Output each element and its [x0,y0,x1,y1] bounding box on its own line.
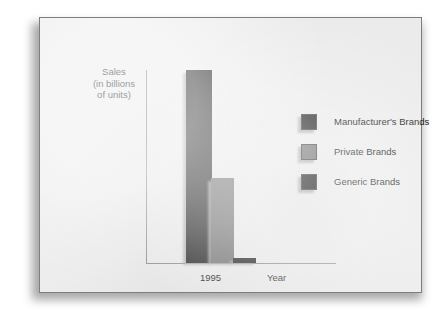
legend-swatch-box [301,114,317,130]
legend-swatch-manufacturers-brands [301,114,317,130]
legend-label-manufacturers-brands: Manufacturer's Brands [334,116,429,127]
y-axis-label-line-1: Sales [84,66,144,78]
y-axis-line [146,70,147,264]
legend-swatch-box [301,174,317,190]
chart-panel: Sales (in billions of units) 1995 Year M… [39,17,422,293]
legend-label-generic-brands: Generic Brands [334,176,400,187]
legend-label-private-brands: Private Brands [334,146,396,157]
legend-swatch-box [301,144,317,160]
bar-private-brands [211,178,234,263]
x-axis-tick-label-1995: 1995 [200,272,221,283]
y-axis-label: Sales (in billions of units) [84,66,144,101]
screenshot-canvas: Sales (in billions of units) 1995 Year M… [0,0,437,323]
legend-swatch-generic-brands [301,174,317,190]
y-axis-label-line-2: (in billions [84,78,144,90]
y-axis-label-line-3: of units) [84,89,144,101]
legend-swatch-private-brands [301,144,317,160]
x-axis-label: Year [267,272,286,283]
bar-generic-brands [233,258,256,263]
